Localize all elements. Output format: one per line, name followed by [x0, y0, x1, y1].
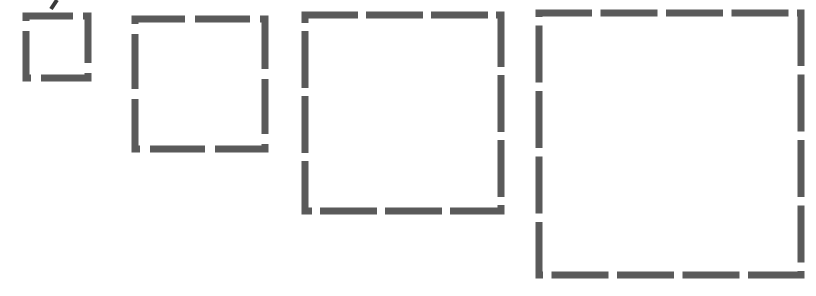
- figure-canvas: [0, 0, 816, 296]
- canvas-background: [0, 0, 816, 296]
- dashed-squares-figure: [0, 0, 816, 296]
